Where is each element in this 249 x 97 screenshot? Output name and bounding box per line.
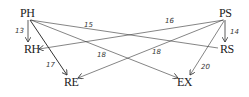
edge-label-ph-ex: 18 xyxy=(97,52,106,59)
edge-label-ps-re: 18 xyxy=(152,49,161,56)
node-ps: PS xyxy=(219,7,231,19)
node-rh: RH xyxy=(24,43,40,55)
edge-label-ph-re: 17 xyxy=(46,62,55,69)
edge-label-ps-ex: 20 xyxy=(201,64,210,71)
edge-label-ph-rh: 13 xyxy=(15,28,24,35)
edge-label-ps-rh: 16 xyxy=(165,18,174,25)
node-ph: PH xyxy=(20,7,34,19)
node-re: RE xyxy=(64,76,78,88)
path-diagram: PH PS RH RS RE EX 13 15 16 14 17 18 18 2… xyxy=(0,0,249,97)
node-rs: RS xyxy=(220,43,234,55)
node-ex: EX xyxy=(177,76,192,88)
edge-ph-rs xyxy=(30,20,218,48)
edge-label-ps-rs: 14 xyxy=(230,29,239,36)
edge-label-ph-rs: 15 xyxy=(84,22,93,29)
